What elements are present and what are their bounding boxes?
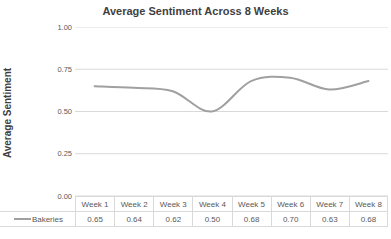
legend-line-icon bbox=[14, 218, 31, 220]
week-header-cell: Week 3 bbox=[153, 196, 192, 212]
y-axis-title: Average Sentiment bbox=[2, 58, 16, 168]
week-header-cell: Week 7 bbox=[310, 196, 349, 212]
value-cell: 0.70 bbox=[271, 212, 310, 227]
week-header-cell: Week 6 bbox=[271, 196, 310, 212]
data-table: Bakeries Week 1Week 2Week 3Week 4Week 5W… bbox=[0, 196, 388, 227]
value-cell: 0.63 bbox=[310, 212, 349, 227]
y-tick-label: 0.75 bbox=[42, 65, 72, 74]
gridlines bbox=[75, 27, 388, 196]
y-tick-label: 0.50 bbox=[42, 107, 72, 116]
y-tick-label: 1.00 bbox=[42, 23, 72, 32]
week-header-cell: Week 5 bbox=[232, 196, 271, 212]
value-cell: 0.68 bbox=[232, 212, 271, 227]
value-cell: 0.50 bbox=[192, 212, 231, 227]
week-header-cell: Week 1 bbox=[75, 196, 114, 212]
bakeries-series-line bbox=[95, 77, 369, 112]
week-header-cell: Week 8 bbox=[349, 196, 388, 212]
chart-title: Average Sentiment Across 8 Weeks bbox=[0, 5, 391, 17]
data-table-corner-cell bbox=[0, 196, 75, 212]
week-header-cell: Week 4 bbox=[192, 196, 231, 212]
week-header-cell: Week 2 bbox=[114, 196, 153, 212]
y-tick-label: 0.25 bbox=[42, 149, 72, 158]
plot-area bbox=[75, 27, 388, 196]
value-cell: 0.64 bbox=[114, 212, 153, 227]
sentiment-line-chart: Average Sentiment Across 8 Weeks Average… bbox=[0, 0, 391, 239]
value-cell: 0.65 bbox=[75, 212, 114, 227]
value-cell: 0.68 bbox=[349, 212, 388, 227]
legend-label: Bakeries bbox=[32, 215, 63, 224]
value-cell: 0.62 bbox=[153, 212, 192, 227]
legend-item-bakeries: Bakeries bbox=[0, 212, 75, 227]
